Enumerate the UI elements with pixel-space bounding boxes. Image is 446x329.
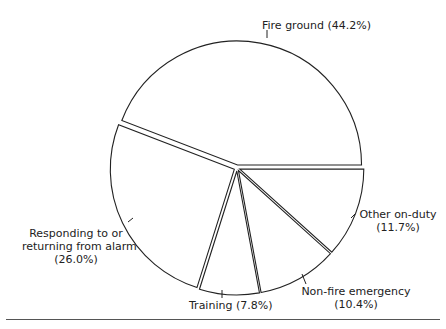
label-non-fire: Non-fire emergency (10.4%) bbox=[301, 285, 411, 311]
label-responding-line1: Responding to or bbox=[22, 227, 130, 240]
pie-chart bbox=[0, 0, 446, 329]
label-other-line2: (11.7%) bbox=[357, 221, 439, 234]
label-fire-ground: Fire ground (44.2%) bbox=[262, 19, 371, 32]
label-responding-line2: returning from alarm bbox=[22, 240, 130, 253]
label-non-fire-line1: Non-fire emergency bbox=[301, 285, 411, 298]
label-other-line1: Other on-duty bbox=[357, 208, 439, 221]
label-responding: Responding to or returning from alarm (2… bbox=[22, 227, 130, 266]
label-training: Training (7.8%) bbox=[189, 299, 272, 312]
label-responding-line3: (26.0%) bbox=[22, 253, 130, 266]
bottom-rule bbox=[6, 319, 440, 320]
label-other-on-duty: Other on-duty (11.7%) bbox=[357, 208, 439, 234]
label-non-fire-line2: (10.4%) bbox=[301, 298, 411, 311]
